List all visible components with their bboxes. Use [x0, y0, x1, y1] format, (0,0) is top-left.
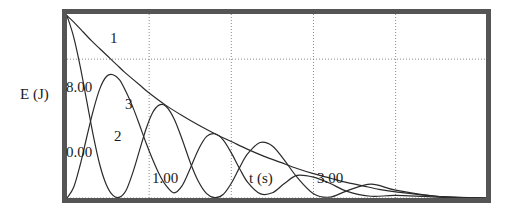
curve-label-1: 1 [110, 30, 118, 47]
y-tick-label-8: 8.00 [66, 79, 92, 96]
x-axis-label: t (s) [249, 170, 273, 187]
y-tick-label-0: 0.00 [66, 144, 92, 161]
y-axis-label: E (J) [20, 86, 49, 103]
x-tick-label-3: 3.00 [317, 170, 343, 187]
curve-label-2: 2 [114, 128, 122, 145]
chart-figure: E (J) 8.00 0.00 1.00 3.00 t (s) 1 3 2 [0, 0, 507, 216]
curve-label-3: 3 [125, 96, 133, 113]
x-tick-label-1: 1.00 [152, 170, 178, 187]
